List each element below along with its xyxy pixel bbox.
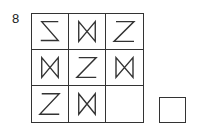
matrix-cell-bowtie-icon [69, 14, 106, 50]
matrix-cell-bowtie-icon [106, 50, 143, 86]
puzzle-matrix [31, 13, 144, 123]
matrix-cell-z-icon [106, 14, 143, 50]
matrix-cell-bowtie-icon [32, 50, 69, 86]
matrix-cell-reversed-z-icon [32, 14, 69, 50]
matrix-cell-z-icon [69, 50, 106, 86]
matrix-cell-z-icon [32, 86, 69, 122]
matrix-cell-bowtie-icon [69, 86, 106, 122]
puzzle-number: 8 [12, 12, 19, 25]
matrix-cell-empty[interactable] [106, 86, 143, 122]
answer-box[interactable] [159, 97, 186, 123]
